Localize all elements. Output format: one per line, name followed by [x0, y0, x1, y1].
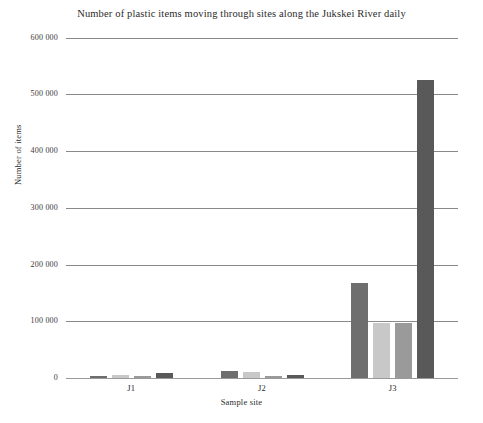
bar — [134, 376, 151, 378]
y-axis-tick-label: 600 000 — [0, 33, 58, 42]
x-axis-tick-label: J3 — [327, 383, 458, 393]
x-axis-title: Sample site — [0, 397, 483, 407]
gridline — [66, 265, 458, 266]
gridline — [66, 208, 458, 209]
bar — [156, 373, 173, 378]
bar — [221, 371, 238, 378]
bar — [265, 376, 282, 378]
bar-chart: Number of plastic items moving through s… — [0, 0, 483, 423]
bar — [417, 80, 434, 378]
plot-area — [66, 38, 458, 379]
gridline — [66, 151, 458, 152]
axis-baseline — [66, 378, 458, 379]
gridline — [66, 38, 458, 39]
bar — [373, 323, 390, 378]
chart-title: Number of plastic items moving through s… — [0, 8, 483, 19]
y-axis-tick-label: 500 000 — [0, 89, 58, 98]
bar — [395, 323, 412, 378]
y-axis-tick-label: 300 000 — [0, 203, 58, 212]
bar — [287, 375, 304, 378]
bar — [351, 283, 368, 378]
y-axis-tick-label: 0 — [0, 373, 58, 382]
y-axis-tick-label: 400 000 — [0, 146, 58, 155]
y-axis-tick-label: 100 000 — [0, 316, 58, 325]
x-axis-tick-label: J1 — [66, 383, 197, 393]
y-axis-tick-label: 200 000 — [0, 260, 58, 269]
x-axis-tick-label: J2 — [197, 383, 328, 393]
bar — [243, 372, 260, 378]
gridline — [66, 94, 458, 95]
bar — [90, 376, 107, 378]
bar — [112, 375, 129, 378]
